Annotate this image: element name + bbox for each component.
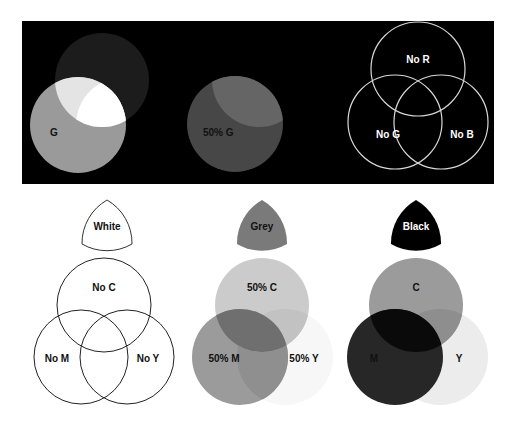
- label-no-r: No R: [406, 54, 430, 65]
- swatch-grey: Grey: [237, 200, 287, 251]
- label-50-m: 50% M: [208, 353, 239, 364]
- label-grey: Grey: [251, 221, 274, 232]
- label-white: White: [93, 221, 121, 232]
- label-no-y: No Y: [137, 353, 160, 364]
- rgb-half-green-venn: 50% G: [187, 76, 283, 172]
- label-no-c: No C: [92, 282, 115, 293]
- label-no-g: No G: [376, 129, 400, 140]
- no-c-circle: [57, 258, 151, 352]
- cmy-half-venn: [192, 258, 333, 405]
- label-c: C: [412, 282, 419, 293]
- label-50-y: 50% Y: [289, 353, 319, 364]
- swatch-black: Black: [391, 200, 441, 251]
- no-y-circle: [80, 310, 174, 404]
- label-50-g: 50% G: [203, 127, 234, 138]
- label-y: Y: [456, 353, 463, 364]
- label-no-b: No B: [450, 129, 473, 140]
- label-50-c: 50% C: [247, 282, 277, 293]
- label-g: G: [50, 127, 58, 138]
- cmy-full-venn: [347, 258, 488, 405]
- label-m: M: [370, 353, 378, 364]
- label-no-m: No M: [45, 353, 69, 364]
- label-black: Black: [403, 221, 430, 232]
- cmy-outline-venn: [34, 258, 174, 404]
- swatch-white: White: [82, 200, 132, 251]
- color-mixing-diagram: G 50% G No R No G No B White Grey Black …: [0, 0, 515, 423]
